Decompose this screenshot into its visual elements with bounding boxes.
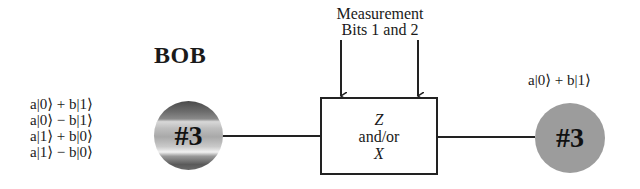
- state-item: a|1⟩ + b|0⟩: [30, 128, 93, 144]
- gate-x-label: X: [374, 145, 384, 162]
- measurement-caption-line2: Bits 1 and 2: [318, 22, 442, 38]
- bob-title: BOB: [154, 42, 206, 69]
- measurement-caption-line1: Measurement: [318, 6, 442, 22]
- measurement-caption: Measurement Bits 1 and 2: [318, 6, 442, 38]
- state-item: a|1⟩ − b|0⟩: [30, 144, 93, 160]
- possible-states-list: a|0⟩ + b|1⟩ a|0⟩ − b|1⟩ a|1⟩ + b|0⟩ a|1⟩…: [30, 96, 93, 160]
- output-state-label: a|0⟩ + b|1⟩: [528, 72, 591, 88]
- input-qubit-circle: #3: [154, 101, 223, 170]
- gate-andor-label: and/or: [359, 128, 400, 145]
- input-qubit-label: #3: [175, 120, 203, 152]
- gate-z-label: Z: [375, 111, 384, 128]
- state-item: a|0⟩ + b|1⟩: [30, 96, 93, 112]
- output-qubit-circle: #3: [535, 103, 605, 173]
- output-qubit-label: #3: [556, 122, 584, 154]
- state-item: a|0⟩ − b|1⟩: [30, 112, 93, 128]
- correction-gate-box: Z and/or X: [320, 97, 438, 175]
